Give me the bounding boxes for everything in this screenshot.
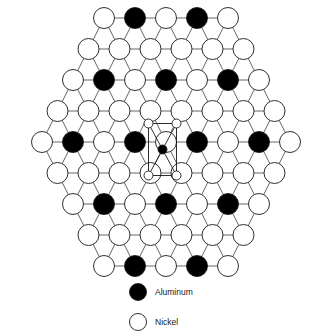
- aluminum-atom: [125, 8, 146, 29]
- nickel-atom: [78, 163, 99, 184]
- aluminum-atom: [125, 132, 146, 153]
- nickel-atom: [78, 101, 99, 122]
- nickel-atom: [47, 101, 68, 122]
- nickel-atom: [202, 39, 223, 60]
- legend-swatch-ni: [130, 314, 147, 331]
- nickel-atom: [218, 256, 239, 277]
- nickel-atom: [109, 225, 130, 246]
- unit-cell-corner-atom: [172, 119, 181, 128]
- aluminum-atom: [187, 8, 208, 29]
- nickel-atom: [94, 132, 115, 153]
- nickel-atom: [109, 101, 130, 122]
- nickel-atom: [109, 39, 130, 60]
- nickel-atom: [125, 70, 146, 91]
- unit-cell-corner-atom: [144, 119, 153, 128]
- nickel-atom: [140, 101, 161, 122]
- legend-swatch-al: [130, 284, 147, 301]
- nickel-atom: [171, 39, 192, 60]
- nickel-atom: [171, 225, 192, 246]
- nickel-atom: [233, 225, 254, 246]
- aluminum-atom: [218, 70, 239, 91]
- aluminum-atom: [249, 132, 270, 153]
- nickel-atom: [218, 8, 239, 29]
- nickel-atom: [218, 132, 239, 153]
- aluminum-atom: [187, 256, 208, 277]
- nickel-atom: [202, 101, 223, 122]
- legend: AluminumNickel: [130, 284, 193, 331]
- nickel-atom: [140, 225, 161, 246]
- nickel-atom: [233, 39, 254, 60]
- nickel-atom: [264, 101, 285, 122]
- nickel-atom: [187, 70, 208, 91]
- unit-cell-corner-atom: [172, 171, 181, 180]
- lattice-diagram: AluminumNickel: [0, 0, 332, 336]
- nickel-atom: [32, 132, 53, 153]
- nickel-atom: [94, 256, 115, 277]
- nickel-atom: [156, 256, 177, 277]
- nickel-atom: [202, 225, 223, 246]
- legend-label-al: Aluminum: [155, 287, 193, 297]
- nickel-atom: [63, 194, 84, 215]
- nickel-atom: [78, 225, 99, 246]
- aluminum-atom: [94, 194, 115, 215]
- nickel-atom: [156, 8, 177, 29]
- nickel-atom: [249, 194, 270, 215]
- nickel-atom: [264, 163, 285, 184]
- nickel-atom: [140, 39, 161, 60]
- aluminum-atom: [187, 132, 208, 153]
- nickel-atom: [233, 101, 254, 122]
- nickel-atom: [202, 163, 223, 184]
- nickel-atom: [94, 8, 115, 29]
- nickel-atom: [233, 163, 254, 184]
- aluminum-atom: [156, 70, 177, 91]
- nickel-atom: [171, 101, 192, 122]
- nickel-atom: [280, 132, 301, 153]
- lattice-figure: AluminumNickel: [0, 0, 332, 336]
- nickel-atom: [109, 163, 130, 184]
- unit-cell-center-atom: [158, 145, 167, 154]
- nickel-atom: [63, 70, 84, 91]
- nickel-atom: [249, 70, 270, 91]
- aluminum-atom: [63, 132, 84, 153]
- aluminum-atom: [94, 70, 115, 91]
- nickel-atom: [78, 39, 99, 60]
- aluminum-atom: [156, 194, 177, 215]
- aluminum-atom: [125, 256, 146, 277]
- nickel-atom: [47, 163, 68, 184]
- nickel-atom: [125, 194, 146, 215]
- unit-cell-corner-atom: [144, 171, 153, 180]
- unit-cell-overlay: [144, 119, 181, 180]
- nickel-atom: [187, 194, 208, 215]
- legend-label-ni: Nickel: [155, 317, 178, 327]
- aluminum-atom: [218, 194, 239, 215]
- atom-layer: [32, 8, 301, 277]
